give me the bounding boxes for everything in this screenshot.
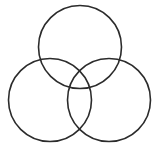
venn-diagram-svg [0,0,158,152]
venn-diagram [0,0,158,152]
circle-right [68,59,151,142]
circle-top [39,6,122,89]
